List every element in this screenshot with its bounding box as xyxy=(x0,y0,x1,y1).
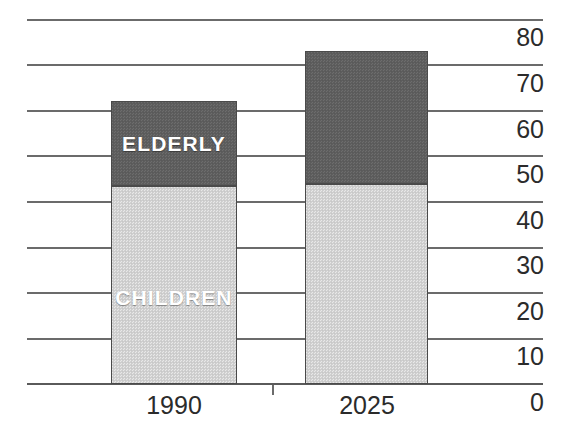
bar-label-children: CHILDREN xyxy=(112,286,236,310)
y-axis-label-80: 80 xyxy=(474,25,544,50)
bar-segment-2025-elderly[interactable] xyxy=(305,51,428,184)
gridline-20 xyxy=(27,292,543,294)
y-axis-label-60: 60 xyxy=(474,117,544,142)
x-axis-line xyxy=(27,383,543,385)
gridline-10 xyxy=(27,338,543,340)
plot-area: 80 70 60 50 40 30 20 10 0 ELDERLY CHILDR… xyxy=(0,0,563,440)
gridline-30 xyxy=(27,247,543,249)
x-axis-label-2025: 2025 xyxy=(307,393,427,418)
y-axis-label-40: 40 xyxy=(474,208,544,233)
x-axis-label-1990: 1990 xyxy=(114,393,234,418)
y-axis-label-10: 10 xyxy=(474,344,544,369)
bar-segment-1990-elderly[interactable]: ELDERLY xyxy=(111,101,237,186)
y-axis-label-20: 20 xyxy=(474,299,544,324)
bar-label-elderly: ELDERLY xyxy=(112,132,236,156)
y-axis-label-0: 0 xyxy=(474,390,544,415)
gridline-50 xyxy=(27,155,543,157)
bar-segment-2025-children[interactable] xyxy=(305,184,428,384)
gridline-70 xyxy=(27,64,543,66)
x-axis-tick-center xyxy=(272,385,274,395)
gridline-60 xyxy=(27,110,543,112)
bar-segment-1990-children[interactable]: CHILDREN xyxy=(111,186,237,384)
gridline-80 xyxy=(27,19,543,21)
gridline-40 xyxy=(27,201,543,203)
y-axis-label-70: 70 xyxy=(474,71,544,96)
y-axis-label-30: 30 xyxy=(474,253,544,278)
y-axis-label-50: 50 xyxy=(474,162,544,187)
stacked-bar-chart: 80 70 60 50 40 30 20 10 0 ELDERLY CHILDR… xyxy=(0,0,563,440)
